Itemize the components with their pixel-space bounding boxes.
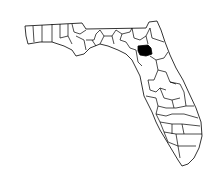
florida-county-map (0, 0, 215, 178)
highlighted-county-alachua (138, 45, 152, 56)
